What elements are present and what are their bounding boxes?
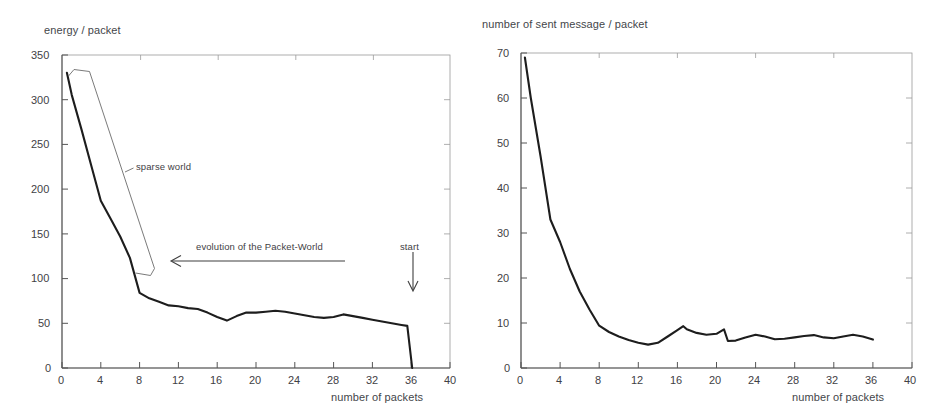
x-tick-label: 12: [631, 374, 643, 386]
chart-panel-messages: number of sent message / packet: [470, 0, 947, 420]
x-tick-label: 36: [865, 374, 877, 386]
x-tick-label: 40: [904, 374, 916, 386]
x-tick-label: 28: [787, 374, 799, 386]
x-tick-label: 24: [288, 374, 300, 386]
annotation-start: start: [400, 241, 419, 252]
x-tick-label: 20: [709, 374, 721, 386]
y-tick-label: 70: [497, 47, 509, 59]
x-tick-label: 4: [97, 374, 103, 386]
x-tick-label: 4: [556, 374, 562, 386]
x-tick-label: 32: [826, 374, 838, 386]
x-tick-label: 32: [366, 374, 378, 386]
x-axis-title: number of packets: [331, 391, 423, 403]
right-tick-marks: [906, 98, 912, 323]
y-tick-label: 30: [497, 227, 509, 239]
sparse-world-leader-line: [125, 168, 134, 172]
y-tick-label: 60: [497, 92, 509, 104]
y-tick-label: 0: [45, 362, 51, 374]
x-tick-label: 0: [517, 374, 523, 386]
y-tick-label: 20: [497, 272, 509, 284]
y-tick-marks: [62, 55, 68, 368]
evolution-arrow: [171, 256, 345, 267]
x-tick-label: 36: [405, 374, 417, 386]
x-tick-label: 16: [670, 374, 682, 386]
figure-container: energy / packet: [0, 0, 947, 420]
x-tick-label: 20: [249, 374, 261, 386]
y-tick-marks: [521, 53, 527, 368]
x-axis-title: number of packets: [792, 391, 884, 403]
x-tick-label: 12: [172, 374, 184, 386]
data-line-messages: [525, 58, 873, 345]
energy-chart-svg: [0, 0, 470, 420]
y-tick-label: 40: [497, 182, 509, 194]
start-arrow: [408, 252, 418, 291]
y-tick-label: 50: [38, 317, 50, 329]
plot-frame: [521, 53, 912, 368]
y-tick-label: 10: [497, 317, 509, 329]
top-tick-marks: [599, 53, 834, 58]
top-tick-marks: [141, 55, 374, 60]
x-tick-marks: [62, 362, 450, 368]
x-tick-label: 16: [210, 374, 222, 386]
y-tick-label: 300: [31, 94, 49, 106]
sparse-world-bracket: [69, 70, 155, 276]
x-tick-label: 24: [748, 374, 760, 386]
y-tick-label: 350: [31, 49, 49, 61]
data-line-energy: [67, 73, 412, 368]
y-tick-label: 0: [504, 362, 510, 374]
messages-chart-svg: [470, 0, 947, 420]
right-tick-marks: [444, 100, 450, 324]
x-tick-label: 0: [58, 374, 64, 386]
chart-panel-energy: energy / packet: [0, 0, 470, 420]
plot-frame: [62, 55, 450, 368]
annotation-evolution: evolution of the Packet-World: [196, 241, 323, 252]
x-tick-label: 40: [444, 374, 456, 386]
y-tick-label: 200: [31, 183, 49, 195]
annotation-sparse-world: sparse world: [136, 161, 191, 172]
y-tick-label: 150: [31, 228, 49, 240]
y-tick-label: 100: [31, 272, 49, 284]
y-tick-label: 50: [497, 137, 509, 149]
y-tick-label: 250: [31, 138, 49, 150]
x-tick-marks: [521, 362, 912, 368]
x-tick-label: 8: [595, 374, 601, 386]
x-tick-label: 28: [327, 374, 339, 386]
x-tick-label: 8: [136, 374, 142, 386]
